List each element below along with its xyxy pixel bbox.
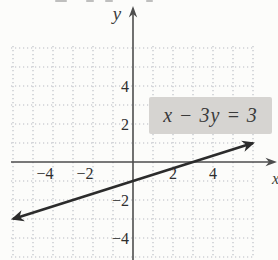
x-tick-label: 4 bbox=[209, 165, 217, 182]
cropped-text-artifact bbox=[146, 0, 153, 2]
x-tick-label: −4 bbox=[36, 165, 53, 182]
equation-text: x − 3y = 3 bbox=[163, 104, 258, 127]
x-tick-label: 2 bbox=[169, 165, 177, 182]
y-tick-label: 4 bbox=[121, 78, 129, 95]
y-axis-label: y bbox=[106, 3, 128, 25]
coordinate-plane-figure: −4−22442−2−4 x − 3y = 3 y x bbox=[0, 0, 278, 260]
cropped-text-artifact bbox=[86, 0, 94, 2]
x-tick-label: −2 bbox=[76, 165, 93, 182]
y-tick-label: −4 bbox=[112, 230, 129, 247]
cropped-text-artifact bbox=[55, 0, 67, 2]
cropped-text-artifact bbox=[105, 0, 113, 2]
y-tick-label: 2 bbox=[121, 116, 129, 133]
equation-label-box: x − 3y = 3 bbox=[149, 97, 272, 134]
x-axis-label: x bbox=[272, 170, 278, 188]
y-tick-label: −2 bbox=[112, 192, 129, 209]
